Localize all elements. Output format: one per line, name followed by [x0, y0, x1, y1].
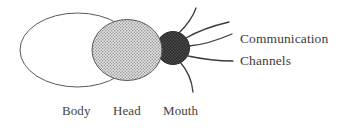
communication-channels-figure: Body Head Mouth Communication Channels — [0, 0, 350, 128]
communication-channels-label-line2: Channels — [240, 53, 291, 68]
channel-up-steep — [179, 8, 196, 33]
channel-up-right — [186, 22, 229, 38]
mouth-label: Mouth — [163, 104, 198, 118]
head-ellipse — [92, 20, 162, 81]
channel-down-steep — [180, 62, 193, 92]
head-label: Head — [113, 104, 141, 118]
communication-channels-label-line1: Communication — [240, 31, 328, 46]
channel-right — [189, 34, 232, 46]
channel-down-right — [188, 56, 233, 61]
body-label: Body — [62, 104, 91, 118]
